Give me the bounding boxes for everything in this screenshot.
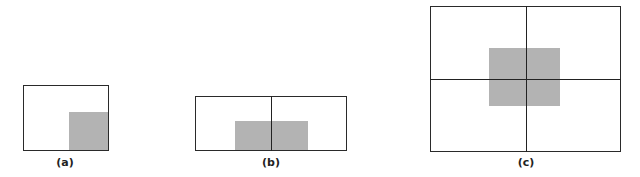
- panel-c-horizontal-divider: [430, 79, 621, 80]
- panel-b-vertical-divider: [271, 96, 273, 151]
- panel-c-caption: (c): [518, 156, 535, 169]
- panel-a-caption: (a): [56, 156, 73, 169]
- panel-a-shaded-region: [69, 112, 108, 150]
- panel-c-shaded-region: [489, 48, 560, 106]
- panel-b-caption: (b): [262, 156, 280, 169]
